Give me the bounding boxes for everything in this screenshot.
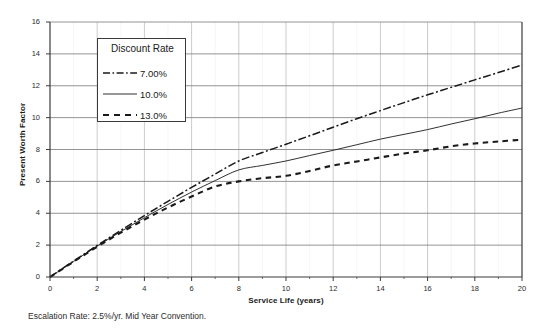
x-tick-label: 0 <box>37 284 63 293</box>
x-tick-label: 20 <box>509 284 535 293</box>
x-tick-label: 16 <box>415 284 441 293</box>
x-axis-title: Service Life (years) <box>50 296 522 305</box>
y-tick-label: 4 <box>14 208 40 217</box>
x-tick-label: 6 <box>179 284 205 293</box>
chart-footnote: Escalation Rate: 2.5%/yr. Mid Year Conve… <box>28 311 206 321</box>
x-tick-label: 8 <box>226 284 252 293</box>
legend: Discount Rate 7.00% 10.0% 13.0% <box>97 38 186 122</box>
legend-label-13-0: 13.0% <box>140 110 167 121</box>
legend-swatch-dash-dot <box>102 67 138 79</box>
legend-swatch-solid <box>102 88 138 100</box>
chart-figure: 0246810121416 02468101214161820 Present … <box>0 0 545 329</box>
legend-swatch-dashed <box>102 109 138 121</box>
x-tick-label: 10 <box>273 284 299 293</box>
plot-canvas <box>0 0 545 329</box>
legend-label-7-00: 7.00% <box>140 68 167 79</box>
y-tick-label: 2 <box>14 240 40 249</box>
x-tick-label: 18 <box>462 284 488 293</box>
legend-item-13-0: 13.0% <box>98 105 187 125</box>
legend-title: Discount Rate <box>98 43 187 54</box>
y-tick-label: 0 <box>14 272 40 281</box>
x-tick-label: 4 <box>131 284 157 293</box>
x-tick-label: 12 <box>320 284 346 293</box>
y-tick-label: 14 <box>14 49 40 58</box>
legend-label-10-0: 10.0% <box>140 89 167 100</box>
y-tick-label: 16 <box>14 17 40 26</box>
legend-item-7-00: 7.00% <box>98 63 187 83</box>
legend-item-10-0: 10.0% <box>98 84 187 104</box>
x-tick-label: 2 <box>84 284 110 293</box>
y-axis-title: Present Worth Factor <box>18 85 27 205</box>
x-tick-label: 14 <box>367 284 393 293</box>
